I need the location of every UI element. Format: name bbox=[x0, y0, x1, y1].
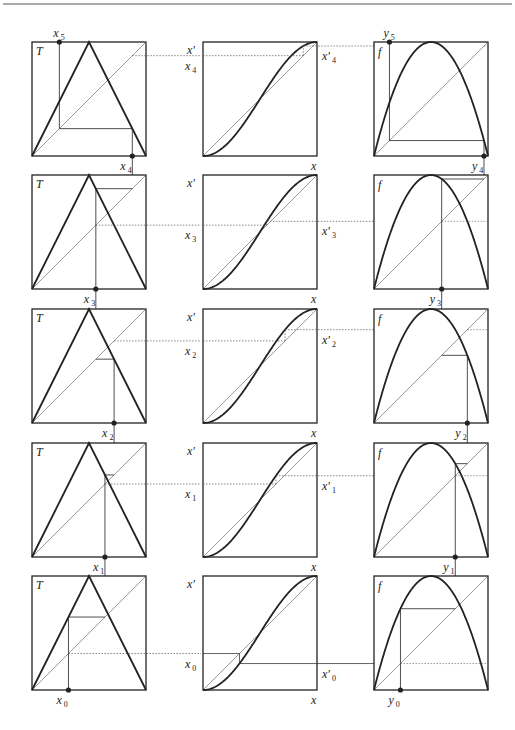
conjugacy-panel: x'x4xx'4 bbox=[184, 42, 374, 173]
xprime-label: x'3 bbox=[321, 224, 336, 240]
y-axis-label: x' bbox=[186, 577, 195, 591]
logistic-panel: fy2 bbox=[374, 309, 488, 443]
y-orbit-label: y4 bbox=[471, 159, 483, 175]
x-orbit-label: x0 bbox=[55, 693, 67, 709]
conjugacy-panel: x'x1xx'1 bbox=[184, 443, 374, 574]
tent-panel: Tx2 bbox=[32, 309, 201, 443]
logistic-label: f bbox=[378, 579, 383, 593]
diagonal-line bbox=[32, 443, 146, 557]
cobweb-line bbox=[455, 464, 467, 557]
x-level-label: x2 bbox=[184, 344, 196, 360]
logistic-label: f bbox=[378, 312, 383, 326]
tent-label: T bbox=[36, 311, 44, 325]
xprime-label: x'0 bbox=[321, 667, 336, 683]
cobweb-line bbox=[59, 129, 132, 156]
logistic-label: f bbox=[378, 446, 383, 460]
conjugacy-panel: x'x3xx'3 bbox=[184, 175, 374, 306]
x-axis-label: x bbox=[310, 426, 317, 440]
tent-label: T bbox=[36, 445, 44, 459]
x-orbit-label: x3 bbox=[83, 292, 95, 308]
tent-panel: Tx0 bbox=[32, 576, 201, 709]
x-level-label: x1 bbox=[184, 487, 196, 503]
y-axis-label: x' bbox=[186, 43, 195, 57]
x-axis-label: x bbox=[310, 292, 317, 306]
row-step-4: Tx4x5x'x4xx'4fy4y5 bbox=[32, 26, 488, 175]
y-orbit-label: y0 bbox=[387, 693, 399, 709]
tent-label: T bbox=[36, 578, 44, 592]
tent-panel: Tx3 bbox=[32, 175, 201, 309]
row-step-0: Tx0x'x0xx'0fy0 bbox=[32, 576, 488, 709]
cobweb-line bbox=[96, 189, 132, 289]
tent-label: T bbox=[36, 44, 44, 58]
orbit-point bbox=[398, 687, 403, 692]
row-step-1: Tx1x'x1xx'1fy1 bbox=[32, 443, 488, 576]
y-axis-label: x' bbox=[186, 444, 195, 458]
conjugacy-panel: x'x0xx'0 bbox=[184, 576, 374, 707]
x-level-label: x4 bbox=[184, 59, 196, 75]
row-step-2: Tx2x'x2xx'2fy2 bbox=[32, 309, 488, 443]
y-next-label: y5 bbox=[382, 26, 394, 42]
x-orbit-label: x2 bbox=[101, 426, 113, 442]
logistic-panel: fy3 bbox=[374, 175, 488, 309]
cobweb-line bbox=[400, 609, 455, 690]
tent-panel: Tx1 bbox=[32, 443, 201, 576]
diagonal-line bbox=[32, 576, 146, 690]
panel-grid: Tx4x5x'x4xx'4fy4y5Tx3x'x3xx'3fy3Tx2x'x2x… bbox=[32, 26, 488, 709]
cobweb-line bbox=[389, 141, 484, 156]
cobweb-line bbox=[105, 475, 114, 557]
y-axis-label: x' bbox=[186, 176, 195, 190]
diagonal-line bbox=[32, 309, 146, 423]
y-orbit-label: y1 bbox=[442, 560, 454, 576]
conjugacy-diagram: Tx4x5x'x4xx'4fy4y5Tx3x'x3xx'3fy3Tx2x'x2x… bbox=[0, 0, 515, 730]
x-next-label: x5 bbox=[52, 26, 64, 42]
y-orbit-label: y2 bbox=[454, 426, 466, 442]
y-axis-label: x' bbox=[186, 310, 195, 324]
x-level-label: x0 bbox=[184, 657, 196, 673]
xprime-label: x'2 bbox=[321, 333, 336, 349]
x-axis-label: x bbox=[310, 693, 317, 707]
orbit-point bbox=[66, 687, 71, 692]
x-orbit-label: x1 bbox=[92, 560, 104, 576]
y-orbit-label: y3 bbox=[429, 292, 441, 308]
cobweb-line bbox=[96, 359, 114, 423]
xprime-label: x'4 bbox=[321, 49, 336, 65]
conjugacy-panel: x'x2xx'2 bbox=[184, 309, 374, 440]
logistic-panel: fy1 bbox=[374, 443, 488, 576]
logistic-panel: fy0 bbox=[374, 576, 488, 709]
x-orbit-label: x4 bbox=[119, 159, 131, 175]
tent-label: T bbox=[36, 177, 44, 191]
x-level-label: x3 bbox=[184, 228, 196, 244]
x-axis-label: x bbox=[310, 159, 317, 173]
logistic-label: f bbox=[378, 45, 383, 59]
x-axis-label: x bbox=[310, 560, 317, 574]
diagonal-line bbox=[32, 42, 146, 156]
cobweb-line bbox=[442, 355, 468, 423]
xprime-label: x'1 bbox=[321, 479, 336, 495]
logistic-panel: fy4y5 bbox=[374, 26, 488, 175]
logistic-label: f bbox=[378, 178, 383, 192]
row-step-3: Tx3x'x3xx'3fy3 bbox=[32, 175, 488, 309]
cobweb-line bbox=[442, 179, 484, 289]
diagonal-line bbox=[32, 175, 146, 289]
tent-panel: Tx4x5 bbox=[32, 26, 201, 175]
